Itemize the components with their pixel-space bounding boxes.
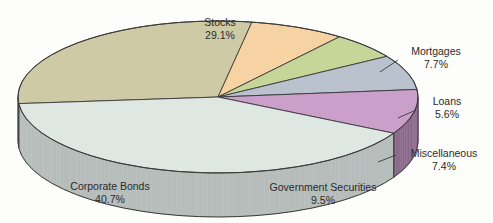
slice-label-miscellaneous-pct: 7.4%	[398, 160, 490, 173]
slice-label-miscellaneous-name: Miscellaneous	[411, 147, 478, 159]
slice-label-stocks: Stocks 29.1%	[168, 16, 272, 41]
slice-label-government-securities: Government Securities 9.5%	[253, 181, 393, 206]
slice-label-corporate-bonds-name: Corporate Bonds	[70, 180, 149, 192]
slice-label-miscellaneous: Miscellaneous 7.4%	[398, 147, 490, 172]
slice-label-corporate-bonds: Corporate Bonds 40.7%	[52, 180, 168, 205]
slice-label-corporate-bonds-pct: 40.7%	[52, 193, 168, 206]
slice-label-mortgages-pct: 7.7%	[396, 58, 476, 71]
slice-label-loans: Loans 5.6%	[418, 95, 476, 120]
slice-label-stocks-name: Stocks	[204, 16, 236, 28]
slice-label-loans-pct: 5.6%	[418, 108, 476, 121]
pie-chart-figure: Stocks 29.1% Mortgages 7.7% Loans 5.6% M…	[0, 0, 493, 223]
slice-label-government-securities-pct: 9.5%	[253, 194, 393, 207]
slice-label-government-securities-name: Government Securities	[270, 181, 377, 193]
slice-label-mortgages-name: Mortgages	[411, 45, 461, 57]
slice-label-stocks-pct: 29.1%	[168, 29, 272, 42]
slice-label-loans-name: Loans	[433, 95, 462, 107]
slice-label-mortgages: Mortgages 7.7%	[396, 45, 476, 70]
